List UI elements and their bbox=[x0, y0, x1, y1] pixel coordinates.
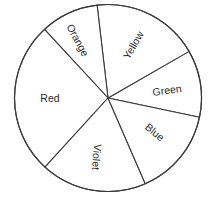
pie-chart: Green Yellow Orange Red Violet Blue bbox=[0, 0, 216, 200]
slice-label-red: Red bbox=[40, 92, 59, 104]
slice-label-violet: Violet bbox=[90, 143, 104, 170]
